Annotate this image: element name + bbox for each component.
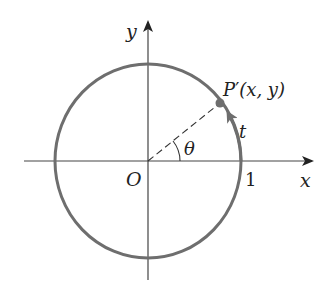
y-axis-label: y: [125, 20, 137, 42]
point-label: P′(x, y): [222, 79, 285, 100]
origin-label: O: [126, 168, 142, 190]
angle-label: θ: [184, 138, 195, 159]
arc-length-label: t: [239, 121, 247, 142]
point-coords: (x, y): [239, 79, 285, 100]
point-name: P: [222, 79, 236, 100]
x-axis-label: x: [300, 169, 311, 191]
angle-arc: [173, 141, 180, 161]
unit-circle-diagram: y x O 1 θ t P′(x, y): [0, 0, 330, 282]
unit-tick-label: 1: [245, 169, 256, 190]
